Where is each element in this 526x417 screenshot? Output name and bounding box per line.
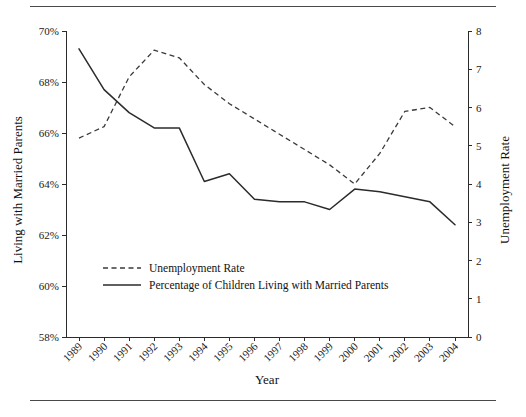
y2-axis-label: Unemployment Rate — [497, 136, 512, 244]
x-tick-label: 1999 — [311, 340, 335, 364]
right-tick-label: 1 — [476, 293, 482, 305]
left-tick-label: 64% — [39, 178, 59, 190]
x-tick-label: 1995 — [211, 340, 235, 364]
right-tick-label: 5 — [476, 140, 482, 152]
left-tick-label: 60% — [39, 280, 59, 292]
series-married-parents — [79, 49, 455, 225]
x-axis-ticks: 1989199019911992199319941995199619971998… — [60, 337, 460, 364]
axes-group — [66, 31, 468, 337]
x-tick-label: 1992 — [136, 340, 160, 364]
x-tick-label: 1993 — [161, 340, 185, 364]
right-tick-label: 4 — [476, 178, 482, 190]
x-tick-label: 1997 — [261, 340, 285, 364]
data-series-group — [79, 49, 455, 225]
x-tick-label: 2004 — [436, 340, 460, 364]
right-tick-label: 8 — [476, 25, 482, 37]
right-tick-label: 0 — [476, 331, 482, 343]
x-tick-label: 1996 — [236, 340, 260, 364]
x-tick-label: 1990 — [85, 340, 109, 364]
x-tick-label: 1989 — [60, 340, 84, 364]
x-tick-label: 1994 — [186, 340, 210, 364]
legend-label: Percentage of Children Living with Marri… — [149, 279, 389, 292]
left-tick-label: 62% — [39, 229, 59, 241]
x-tick-label: 2002 — [386, 340, 410, 364]
x-tick-label: 1998 — [286, 340, 310, 364]
right-tick-label: 3 — [476, 216, 482, 228]
figure-container: 58%60%62%64%66%68%70% 012345678 19891990… — [0, 0, 526, 417]
left-tick-label: 70% — [39, 25, 59, 37]
x-tick-label: 2001 — [361, 340, 385, 364]
y-axis-label: Living with Married Parents — [10, 116, 25, 264]
x-tick-label: 2003 — [411, 340, 435, 364]
legend-label: Unemployment Rate — [149, 262, 245, 275]
right-tick-label: 2 — [476, 255, 482, 267]
left-tick-label: 58% — [39, 331, 59, 343]
chart-legend: Unemployment RatePercentage of Children … — [103, 262, 389, 292]
x-tick-label: 1991 — [111, 340, 135, 364]
line-chart: 58%60%62%64%66%68%70% 012345678 19891990… — [0, 0, 526, 417]
right-axis-ticks: 012345678 — [468, 25, 482, 343]
left-tick-label: 66% — [39, 127, 59, 139]
right-tick-label: 6 — [476, 102, 482, 114]
left-tick-label: 68% — [39, 76, 59, 88]
left-axis-ticks: 58%60%62%64%66%68%70% — [39, 25, 66, 343]
x-tick-label: 2000 — [336, 340, 360, 364]
x-axis-label: Year — [255, 372, 280, 387]
right-tick-label: 7 — [476, 63, 482, 75]
